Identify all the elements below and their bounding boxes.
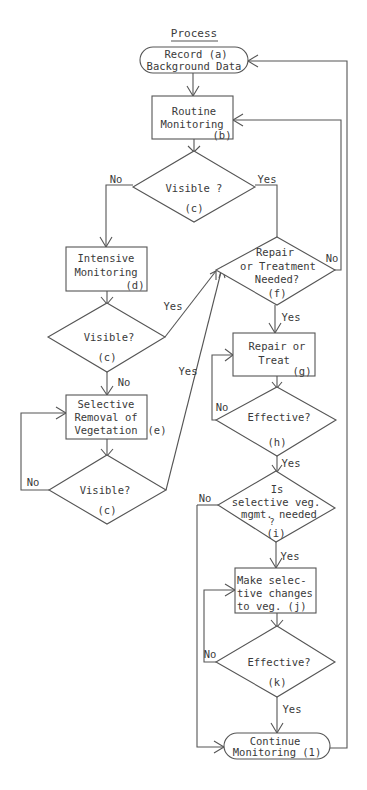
svg-text:mgmt. needed: mgmt. needed: [241, 508, 317, 520]
svg-text:(f): (f): [268, 287, 287, 299]
svg-text:Needed?: Needed?: [255, 273, 299, 285]
node-record-background-data: Record (a) Background Data: [140, 47, 248, 73]
svg-text:selective veg.: selective veg.: [232, 496, 321, 508]
process-flowchart: Process: [0, 0, 367, 790]
edge-label-f-yes: Yes: [282, 311, 301, 323]
edge-label-c2-no: No: [118, 376, 131, 388]
edge-label-f-no: No: [326, 252, 339, 264]
svg-text:Monitoring (1): Monitoring (1): [233, 746, 322, 758]
svg-text:(b): (b): [213, 129, 232, 141]
edge-label-c3-yes: Yes: [179, 365, 198, 377]
edge-label-h-yes: Yes: [282, 457, 301, 469]
decision-effective-k: Effective? (k): [216, 626, 335, 697]
svg-text:Selective: Selective: [78, 398, 135, 410]
svg-text:Visible?: Visible?: [84, 331, 135, 343]
svg-text:(c): (c): [98, 504, 117, 516]
svg-text:Record (a): Record (a): [164, 48, 227, 60]
svg-text:Monitoring: Monitoring: [74, 266, 137, 278]
svg-text:(c): (c): [185, 202, 204, 214]
svg-text:Repair: Repair: [256, 246, 294, 258]
edge-label-k-no: No: [204, 648, 217, 660]
svg-text:Background Data: Background Data: [147, 60, 242, 72]
svg-text:(c): (c): [98, 351, 117, 363]
node-repair-or-treat: Repair or Treat (g): [233, 333, 315, 377]
svg-text:Intensive: Intensive: [78, 252, 135, 264]
svg-text:(e): (e): [148, 424, 167, 436]
decision-visible-3: Visible? (c): [49, 455, 166, 524]
svg-text:to veg. (j): to veg. (j): [237, 600, 307, 612]
edge-label-k-yes: Yes: [283, 703, 302, 715]
svg-text:Removal of: Removal of: [74, 411, 137, 423]
node-continue-monitoring: Continue Monitoring (1): [224, 733, 330, 759]
node-selective-removal-of-vegetation: Selective Removal of Vegetation (e): [66, 395, 166, 439]
decision-repair-or-treatment-needed: Repair or Treatment Needed? (f): [216, 237, 335, 305]
edge-label-c2-yes: Yes: [164, 300, 183, 312]
svg-text:Treat: Treat: [258, 354, 290, 366]
svg-text:Vegetation: Vegetation: [74, 424, 137, 436]
node-make-selective-changes-to-veg: Make selec- tive changes to veg. (j): [235, 568, 316, 613]
flowchart-title: Process: [171, 27, 218, 41]
svg-text:or Treatment: or Treatment: [240, 260, 316, 272]
edge-label-h-no: No: [216, 401, 229, 413]
edge-label-c1-yes: Yes: [258, 173, 277, 185]
decision-visible-1: Visible ? (c): [133, 151, 255, 222]
svg-text:(i): (i): [267, 527, 286, 539]
decision-effective-h: Effective? (h): [216, 387, 336, 456]
decision-selective-veg-mgmt-needed: Is selective veg. mgmt. needed ? (i): [218, 471, 335, 542]
decision-visible-2: Visible? (c): [48, 303, 165, 372]
node-routine-monitoring: Routine Monitoring (b): [152, 96, 233, 141]
svg-text:Is: Is: [271, 483, 284, 495]
svg-text:(k): (k): [268, 676, 287, 688]
svg-text:Process: Process: [171, 27, 217, 40]
svg-text:Visible ?: Visible ?: [166, 182, 223, 194]
svg-text:(h): (h): [268, 436, 287, 448]
svg-text:Visible?: Visible?: [80, 484, 131, 496]
svg-text:Effective?: Effective?: [247, 656, 310, 668]
svg-text:Routine: Routine: [172, 105, 216, 117]
svg-text:?: ?: [269, 517, 274, 527]
svg-text:Repair or: Repair or: [249, 340, 306, 352]
svg-text:Make selec-: Make selec-: [237, 574, 307, 586]
svg-text:Effective?: Effective?: [247, 411, 310, 423]
edge-label-c1-no: No: [110, 173, 123, 185]
node-intensive-monitoring: Intensive Monitoring (d): [66, 247, 147, 291]
edge-label-i-yes: Yes: [281, 550, 300, 562]
edge-label-i-no: No: [199, 492, 212, 504]
svg-text:tive changes: tive changes: [237, 587, 313, 599]
edge-label-c3-no: No: [27, 476, 40, 488]
svg-text:(g): (g): [293, 365, 312, 377]
svg-text:(d): (d): [126, 279, 145, 291]
